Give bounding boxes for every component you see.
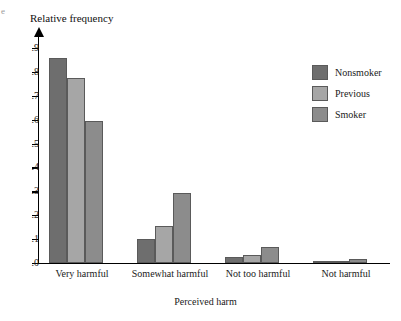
figure-corner-mark: e — [1, 6, 5, 16]
legend-label: Smoker — [335, 109, 366, 120]
legend-label: Previous — [335, 88, 370, 99]
y-tick-label: .0 — [15, 258, 39, 268]
x-tick-label: Not too harmful — [214, 268, 302, 280]
y-tick-label: .1 — [15, 234, 39, 244]
bar-nonsmoker-not-harmful — [313, 261, 331, 263]
legend-swatch-nonsmoker — [312, 65, 328, 80]
legend-swatch-previous — [312, 86, 328, 101]
y-tick-label: .4 — [15, 162, 39, 172]
x-axis-title-text: Perceived harm — [174, 296, 236, 307]
x-axis-title: Perceived harm — [0, 296, 401, 308]
y-tick-label: .8 — [15, 67, 39, 77]
bar-previous-somewhat-harmful — [155, 226, 173, 263]
y-tick-label: .2 — [15, 210, 39, 220]
y-tick-label: .5 — [15, 139, 39, 149]
bar-previous-very-harmful — [67, 78, 85, 263]
bar-group — [225, 36, 279, 263]
bar-smoker-very-harmful — [85, 121, 103, 263]
bar-smoker-not-harmful — [349, 259, 367, 263]
bar-group — [137, 36, 191, 263]
y-tick-label: .6 — [15, 115, 39, 125]
legend-label: Nonsmoker — [335, 67, 382, 78]
y-tick-label: .3 — [15, 186, 39, 196]
y-tick-label: .7 — [15, 91, 39, 101]
bar-smoker-somewhat-harmful — [173, 193, 191, 263]
bar-chart-figure: e Relative frequency .0.1.2.3.4.5.6.7.8.… — [0, 0, 401, 321]
bar-smoker-not-too-harmful — [261, 247, 279, 263]
x-tick-label: Somewhat harmful — [126, 268, 214, 280]
legend-item: Nonsmoker — [312, 62, 382, 83]
bar-group — [49, 36, 103, 263]
x-tick-label: Very harmful — [38, 268, 126, 280]
legend-swatch-smoker — [312, 107, 328, 122]
bar-previous-not-harmful — [331, 261, 349, 263]
chart-legend: NonsmokerPreviousSmoker — [312, 62, 382, 125]
bar-nonsmoker-very-harmful — [49, 58, 67, 263]
x-tick-label: Not harmful — [302, 268, 390, 280]
y-tick-label: .9 — [15, 43, 39, 53]
legend-item: Smoker — [312, 104, 382, 125]
bar-nonsmoker-somewhat-harmful — [137, 239, 155, 263]
bar-nonsmoker-not-too-harmful — [225, 257, 243, 263]
bar-previous-not-too-harmful — [243, 255, 261, 263]
y-axis-title: Relative frequency — [30, 12, 113, 25]
legend-item: Previous — [312, 83, 382, 104]
